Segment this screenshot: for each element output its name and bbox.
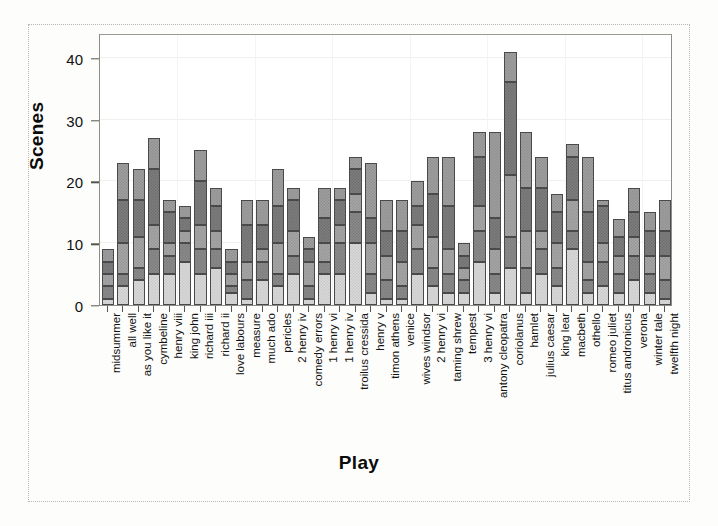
x-tick-label-2-henry-iv: 2 henry iv	[297, 313, 309, 363]
bar-segment-act-4	[163, 212, 175, 243]
x-tick-label-coriolanus: coriolanus	[514, 313, 526, 365]
bar-segment-act-2	[102, 286, 114, 298]
bar-segment-act-4	[566, 157, 578, 200]
bar-henry-v[interactable]	[365, 163, 377, 305]
bar-richard-ii[interactable]	[210, 188, 222, 305]
bar-richard-iii[interactable]	[194, 150, 206, 305]
bar-coriolanus[interactable]	[504, 52, 516, 305]
bar-macbeth[interactable]	[566, 144, 578, 305]
bar-segment-act-5	[102, 249, 114, 261]
bar-segment-act-1	[613, 293, 625, 305]
bar-segment-act-1	[148, 274, 160, 305]
bar-2-henry-vi[interactable]	[427, 157, 439, 305]
x-tick-label-verona: verona	[638, 313, 650, 348]
x-tick-label-king-john: king john	[189, 313, 201, 359]
bar-segment-act-2	[597, 262, 609, 287]
bar-segment-act-5	[582, 157, 594, 213]
x-tick-mark-4	[169, 306, 170, 312]
bar-segment-act-1	[287, 274, 299, 305]
bar-tempest[interactable]	[458, 243, 470, 305]
bar-segment-act-2	[535, 249, 547, 274]
bar-segment-act-3	[117, 243, 129, 274]
bar-measure[interactable]	[241, 200, 253, 305]
x-tick-mark-11	[277, 306, 278, 312]
bar-titus-andronicus[interactable]	[613, 219, 625, 305]
x-tick-label-twelfth-night: twelfth night	[669, 313, 681, 374]
x-tick-mark-14	[324, 306, 325, 312]
bar-taming-shrew[interactable]	[442, 157, 454, 305]
bar-cymbeline[interactable]	[148, 138, 160, 305]
bar-twelfth-night[interactable]	[659, 200, 671, 305]
x-tick-label-comedy-errors: comedy errors	[313, 313, 325, 387]
x-tick-label-henry-v: henry v	[375, 313, 387, 351]
bar-julius-caesar[interactable]	[535, 157, 547, 305]
bar-segment-act-5	[148, 138, 160, 169]
bar-1-henry-vi[interactable]	[318, 188, 330, 305]
bar-much-ado[interactable]	[256, 200, 268, 305]
bar-king-john[interactable]	[179, 206, 191, 305]
bar-segment-act-2	[473, 231, 485, 262]
bar-segment-act-4	[365, 218, 377, 243]
bar-venice[interactable]	[396, 200, 408, 305]
y-tick-label-20: 20	[66, 174, 83, 191]
bar-segment-act-5	[318, 188, 330, 219]
bar-love-labours[interactable]	[225, 249, 237, 305]
bar-segment-act-3	[442, 249, 454, 274]
bar-segment-act-2	[210, 249, 222, 268]
bar-segment-act-1	[163, 274, 175, 305]
x-tick-mark-12	[293, 306, 294, 312]
x-axis-title: Play	[0, 452, 718, 474]
bar-1-henry-iv[interactable]	[334, 188, 346, 305]
bar-segment-act-1	[597, 286, 609, 305]
bar-segment-act-4	[504, 82, 516, 175]
bar-segment-act-1	[427, 286, 439, 305]
bar-king-lear[interactable]	[551, 194, 563, 305]
bar-segment-act-5	[349, 157, 361, 169]
y-axis-title: Scenes	[26, 102, 48, 170]
bar-segment-act-3	[473, 206, 485, 231]
bar-segment-act-2	[411, 249, 423, 274]
x-tick-mark-16	[355, 306, 356, 312]
bar-all-well[interactable]	[117, 163, 129, 305]
bar-segment-act-3	[318, 243, 330, 262]
bar-segment-act-3	[210, 231, 222, 250]
bar-othello[interactable]	[582, 157, 594, 305]
bar-timon-athens[interactable]	[380, 200, 392, 305]
bar-2-henry-iv[interactable]	[287, 188, 299, 305]
bar-as-you-like-it[interactable]	[133, 169, 145, 305]
bar-midsummer[interactable]	[102, 249, 114, 305]
bar-segment-act-4	[473, 157, 485, 206]
bar-henry-viii[interactable]	[163, 200, 175, 305]
bar-segment-act-4	[442, 206, 454, 249]
x-tick-mark-6	[200, 306, 201, 312]
bar-romeo-juliet[interactable]	[597, 200, 609, 305]
x-tick-mark-1	[122, 306, 123, 312]
bar-pericles[interactable]	[272, 169, 284, 305]
bar-segment-act-5	[179, 206, 191, 218]
bar-segment-act-2	[380, 280, 392, 299]
x-tick-mark-29	[556, 306, 557, 312]
bar-segment-act-3	[551, 243, 563, 268]
bar-segment-act-1	[566, 249, 578, 305]
bar-segment-act-2	[504, 237, 516, 268]
bar-hamlet[interactable]	[520, 132, 532, 305]
bar-antony-cleopatra[interactable]	[489, 132, 501, 305]
bar-segment-act-5	[489, 132, 501, 219]
bar-winter-tale[interactable]	[644, 212, 656, 305]
bar-segment-act-5	[256, 200, 268, 225]
bar-troilus-cressida[interactable]	[349, 157, 361, 305]
bar-segment-act-5	[365, 163, 377, 219]
bar-verona[interactable]	[628, 188, 640, 305]
y-tick-label-40: 40	[66, 50, 83, 67]
bar-comedy-errors[interactable]	[303, 237, 315, 305]
x-tick-label-1-henry-iv: 1 henry iv	[344, 313, 356, 363]
bar-segment-act-2	[520, 268, 532, 293]
y-tick-mark-40	[91, 58, 99, 59]
bar-segment-act-1	[535, 274, 547, 305]
bar-segment-act-5	[334, 188, 346, 200]
bar-segment-act-4	[458, 256, 470, 268]
bar-wives-windsor[interactable]	[411, 181, 423, 305]
bar-segment-act-1	[380, 299, 392, 305]
bar-3-henry-vi[interactable]	[473, 132, 485, 305]
bar-segment-act-5	[551, 194, 563, 213]
